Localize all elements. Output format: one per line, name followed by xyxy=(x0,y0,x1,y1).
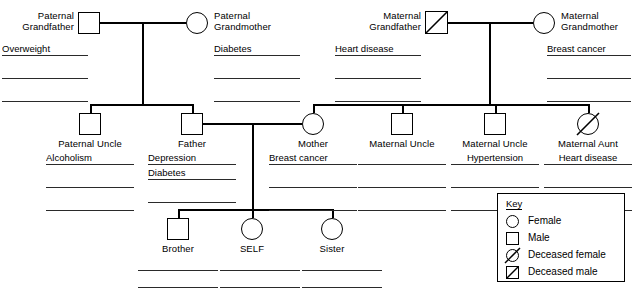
condition-line[interactable] xyxy=(335,89,421,102)
label-father: Father xyxy=(146,138,238,149)
label-line-2: Grandfather xyxy=(369,21,421,32)
label-paternal-grandmother: Paternal Grandmother xyxy=(214,10,306,32)
blanks-paternal-grandfather: Overweight xyxy=(2,43,88,102)
label-sister: Sister xyxy=(286,243,378,254)
symbol-maternal-aunt[interactable] xyxy=(577,113,599,135)
label-line-2: Grandfather xyxy=(22,21,74,32)
sibship-line-maternal xyxy=(313,104,589,106)
symbol-self[interactable] xyxy=(241,218,263,240)
female-icon xyxy=(506,215,519,228)
label-paternal-uncle: Paternal Uncle xyxy=(44,138,136,149)
symbol-sister[interactable] xyxy=(321,218,343,240)
symbol-paternal-grandfather[interactable] xyxy=(78,12,100,34)
label-text: Mother xyxy=(298,138,328,149)
condition-line[interactable] xyxy=(138,275,218,288)
condition-line[interactable] xyxy=(148,190,236,203)
sibship-drop-self xyxy=(252,209,254,218)
condition-line[interactable] xyxy=(302,258,382,271)
symbol-maternal-grandfather[interactable] xyxy=(425,11,448,34)
condition-line[interactable] xyxy=(358,175,446,188)
condition-line[interactable] xyxy=(358,152,446,165)
symbol-maternal-grandmother[interactable] xyxy=(533,12,555,34)
descent-line-parents xyxy=(252,123,254,209)
condition-line[interactable] xyxy=(46,175,134,188)
key-label: Female xyxy=(528,214,561,228)
condition-line[interactable]: Hypertension xyxy=(451,152,539,165)
condition-line[interactable] xyxy=(46,198,134,211)
condition-line[interactable]: Overweight xyxy=(2,43,88,56)
label-text: Brother xyxy=(162,243,194,254)
symbol-maternal-uncle-1[interactable] xyxy=(391,113,413,135)
condition-line[interactable]: Heart disease xyxy=(335,43,421,56)
sibship-drop-maternal-uncle-1 xyxy=(402,104,404,113)
label-line-1: Paternal xyxy=(38,10,74,21)
blanks-father: Depression Diabetes xyxy=(148,152,236,203)
label-maternal-aunt: Maternal Aunt xyxy=(542,138,633,149)
condition-line[interactable] xyxy=(358,198,446,211)
label-text: Paternal Uncle xyxy=(58,138,122,149)
sibship-drop-brother xyxy=(178,209,180,218)
deceased-female-slash-icon xyxy=(504,247,521,264)
label-line-1: Maternal xyxy=(383,10,421,21)
label-self: SELF xyxy=(206,243,298,254)
condition-line[interactable]: Diabetes xyxy=(214,43,300,56)
condition-line[interactable]: Heart disease xyxy=(544,152,632,165)
pedigree-chart: Paternal Grandfather Overweight Paternal… xyxy=(0,0,633,291)
condition-line[interactable] xyxy=(547,66,631,79)
condition-line[interactable] xyxy=(214,89,300,102)
condition-line[interactable]: Diabetes xyxy=(148,167,236,180)
symbol-maternal-uncle-2[interactable] xyxy=(484,113,506,135)
blanks-maternal-grandfather: Heart disease xyxy=(335,43,421,102)
condition-line[interactable] xyxy=(269,198,357,211)
condition-line[interactable]: Breast cancer xyxy=(547,43,631,56)
label-text: Maternal Aunt xyxy=(558,138,618,149)
symbol-paternal-grandmother[interactable] xyxy=(186,12,208,34)
label-maternal-grandfather: Maternal Grandfather xyxy=(333,10,421,32)
blanks-maternal-uncle-1 xyxy=(358,152,446,211)
male-icon xyxy=(506,232,519,245)
condition-line[interactable] xyxy=(214,66,300,79)
blanks-brother xyxy=(138,258,218,291)
label-paternal-grandfather: Paternal Grandfather xyxy=(2,10,74,32)
label-mother: Mother xyxy=(267,138,359,149)
condition-line[interactable] xyxy=(2,66,88,79)
condition-line[interactable]: Alcoholism xyxy=(46,152,134,165)
condition-line[interactable]: Depression xyxy=(148,152,236,165)
descent-line-paternal xyxy=(142,22,144,104)
key-legend-box: Key Female Male Deceased female Deceased… xyxy=(497,193,625,282)
key-label: Deceased female xyxy=(528,248,606,262)
condition-line[interactable] xyxy=(302,275,382,288)
symbol-father[interactable] xyxy=(181,113,203,135)
label-text: Father xyxy=(178,138,206,149)
deceased-male-slash-icon xyxy=(506,266,519,279)
condition-line[interactable] xyxy=(138,258,218,271)
condition-line[interactable] xyxy=(451,175,539,188)
condition-line[interactable]: Breast cancer xyxy=(269,152,357,165)
label-maternal-uncle-2: Maternal Uncle xyxy=(449,138,541,149)
sibship-drop-maternal-uncle-2 xyxy=(495,104,497,113)
sibship-drop-maternal-aunt xyxy=(588,104,590,113)
symbol-brother[interactable] xyxy=(167,218,189,240)
condition-line[interactable] xyxy=(544,175,632,188)
blanks-self xyxy=(220,258,300,291)
label-maternal-grandmother: Maternal Grandmother xyxy=(561,10,633,32)
key-title: Key xyxy=(506,198,522,210)
symbol-paternal-uncle[interactable] xyxy=(79,113,101,135)
label-text: Maternal Uncle xyxy=(462,138,527,149)
blanks-paternal-grandmother: Diabetes xyxy=(214,43,300,102)
sibship-drop-father xyxy=(192,104,194,113)
key-label: Male xyxy=(528,231,550,245)
condition-line[interactable] xyxy=(2,89,88,102)
condition-line[interactable] xyxy=(335,66,421,79)
symbol-mother[interactable] xyxy=(302,113,324,135)
sibship-drop-mother xyxy=(313,104,315,113)
blanks-paternal-uncle: Alcoholism xyxy=(46,152,134,211)
descent-line-maternal xyxy=(489,22,491,104)
condition-line[interactable] xyxy=(220,275,300,288)
condition-line[interactable] xyxy=(269,175,357,188)
sibship-line-paternal xyxy=(90,104,193,106)
label-line-2: Grandmother xyxy=(561,21,618,32)
label-text: Maternal Uncle xyxy=(369,138,434,149)
condition-line[interactable] xyxy=(547,89,631,102)
condition-line[interactable] xyxy=(220,258,300,271)
